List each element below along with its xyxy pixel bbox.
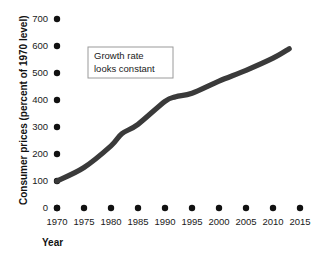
x-tick-label-1995: 1995 — [181, 216, 202, 227]
y-tick-label-700: 700 — [32, 13, 48, 24]
x-tick-dot-1990 — [162, 205, 168, 211]
annotation-callout: Growth rate looks constant — [88, 47, 173, 78]
y-tick-label-600: 600 — [32, 40, 48, 51]
y-tick-label-500: 500 — [32, 67, 48, 78]
y-axis-title: Consumer prices (percent of 1970 level) — [18, 15, 29, 205]
x-tick-label-1970: 1970 — [46, 216, 67, 227]
annotation-line-2: looks constant — [94, 63, 155, 74]
chart-container: Consumer prices (percent of 1970 level) … — [0, 0, 314, 260]
annotation-line-1: Growth rate — [94, 50, 144, 61]
x-axis-title: Year — [42, 237, 63, 248]
x-tick-dot-1980 — [108, 205, 114, 211]
x-tick-label-1975: 1975 — [73, 216, 94, 227]
x-tick-dot-2015 — [297, 205, 303, 211]
y-tick-dot-400 — [54, 97, 60, 103]
y-tick-dot-600 — [54, 43, 60, 49]
x-tick-label-2015: 2015 — [289, 216, 310, 227]
y-tick-label-200: 200 — [32, 148, 48, 159]
x-tick-dot-1985 — [135, 205, 141, 211]
x-tick-label-2000: 2000 — [208, 216, 229, 227]
x-tick-dot-2010 — [270, 205, 276, 211]
y-tick-label-300: 300 — [32, 121, 48, 132]
x-tick-label-2005: 2005 — [235, 216, 256, 227]
y-tick-dot-200 — [54, 151, 60, 157]
x-tick-dot-1975 — [81, 205, 87, 211]
x-tick-label-1980: 1980 — [100, 216, 121, 227]
y-tick-dot-700 — [54, 16, 60, 22]
x-tick-label-1990: 1990 — [154, 216, 175, 227]
y-tick-label-0: 0 — [43, 202, 48, 213]
x-tick-dot-1995 — [189, 205, 195, 211]
y-tick-label-100: 100 — [32, 175, 48, 186]
x-tick-dot-2005 — [243, 205, 249, 211]
x-tick-label-2010: 2010 — [262, 216, 283, 227]
y-tick-dot-500 — [54, 70, 60, 76]
y-tick-label-400: 400 — [32, 94, 48, 105]
y-tick-dot-300 — [54, 124, 60, 130]
line-chart: Consumer prices (percent of 1970 level) … — [0, 0, 314, 260]
x-tick-dot-2000 — [216, 205, 222, 211]
x-tick-dot-1970 — [54, 205, 60, 211]
x-tick-label-1985: 1985 — [127, 216, 148, 227]
